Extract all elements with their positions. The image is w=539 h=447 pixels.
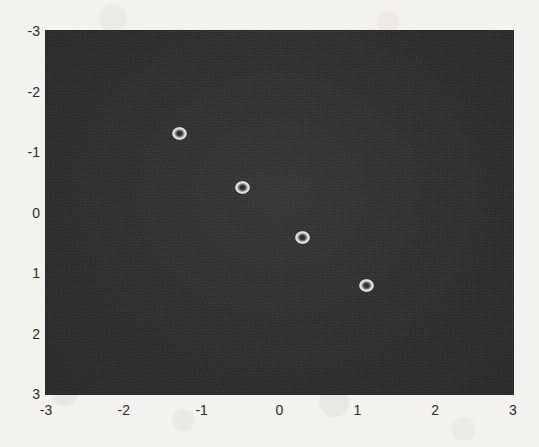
x-axis-tick-label: -2	[118, 403, 130, 417]
x-axis-tick-label: -3	[40, 403, 52, 417]
x-axis-tick-labels: -3-2-10123	[0, 0, 539, 447]
scatter-plot-figure: -3-2-10123 -3-2-10123	[0, 0, 539, 447]
x-axis-tick-label: 2	[431, 403, 439, 417]
x-axis-tick-label: -1	[195, 403, 207, 417]
x-axis-tick-label: 0	[276, 403, 284, 417]
x-axis-tick-label: 3	[509, 403, 517, 417]
x-axis-tick-label: 1	[353, 403, 361, 417]
